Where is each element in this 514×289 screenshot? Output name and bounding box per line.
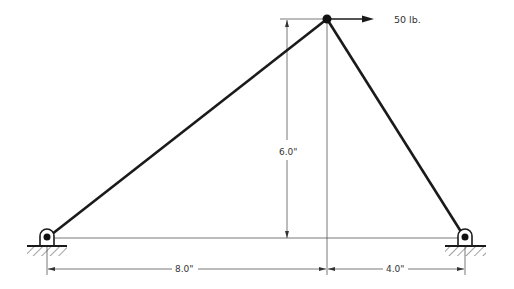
height-label: 6.0"	[279, 147, 297, 157]
load-arrow	[327, 16, 374, 23]
right-span-label: 4.0"	[386, 264, 404, 274]
right-span-dimension: 4.0"	[328, 264, 464, 274]
right-member	[327, 19, 465, 238]
truss-diagram: 6.0" 8.0" 4.0" 50 lb.	[0, 0, 514, 289]
left-span-dimension: 8.0"	[48, 264, 326, 274]
left-member	[47, 19, 327, 238]
left-pin-support	[27, 229, 67, 256]
left-span-label: 8.0"	[175, 264, 193, 274]
load-label: 50 lb.	[394, 14, 421, 25]
top-joint	[323, 15, 332, 24]
height-dimension: 6.0"	[279, 20, 297, 238]
right-pin-support	[445, 229, 486, 256]
